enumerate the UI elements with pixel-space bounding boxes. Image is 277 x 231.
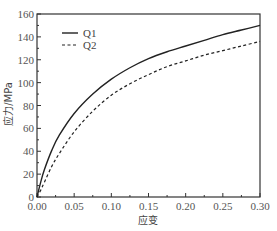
x-tick-label: 0.15 [139,200,159,212]
y-axis-label: 应力/MPa [2,82,14,126]
x-axis-ticks: 0.000.050.100.150.200.250.30 [27,193,270,212]
x-tick-label: 0.25 [213,200,233,212]
y-tick-label: 120 [18,54,35,66]
plot-border [37,14,260,197]
y-tick-label: 160 [18,8,35,20]
x-tick-label: 0.00 [27,200,47,212]
plot-frame [37,14,260,197]
legend: Q1 Q2 [62,27,96,51]
y-tick-label: 40 [23,145,35,157]
x-tick-label: 0.20 [176,200,196,212]
y-tick-label: 20 [23,168,35,180]
y-tick-label: 100 [18,77,35,89]
y-axis-ticks: 020406080100120140160 [18,8,42,203]
x-tick-label: 0.10 [102,200,122,212]
series-layer [37,25,260,197]
x-axis-label: 应变 [138,214,158,226]
y-tick-label: 60 [23,122,35,134]
y-tick-label: 80 [23,100,35,112]
legend-label-q1: Q1 [83,27,96,39]
stress-strain-chart: 020406080100120140160 0.000.050.100.150.… [0,0,277,231]
series-q1 [37,25,260,197]
x-tick-label: 0.30 [250,200,270,212]
y-tick-label: 140 [18,31,35,43]
legend-label-q2: Q2 [83,39,96,51]
x-tick-label: 0.05 [65,200,85,212]
